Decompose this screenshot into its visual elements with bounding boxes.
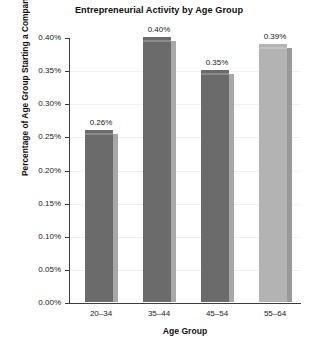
- y-tick: 0.15%: [65, 204, 69, 205]
- bar-side-face: [229, 74, 234, 302]
- x-tick-label: 35–44: [129, 309, 189, 318]
- y-tick-label: 0.20%: [38, 166, 61, 175]
- chart-title: Entrepreneurial Activity by Age Group: [0, 5, 318, 15]
- y-tick: 0.30%: [65, 104, 69, 105]
- y-tick-label: 0.00%: [38, 298, 61, 307]
- bar-side-face: [171, 41, 176, 302]
- x-tick-label: 55–64: [245, 309, 305, 318]
- bar-group[interactable]: 0.35%: [201, 70, 234, 302]
- bar[interactable]: [201, 70, 229, 302]
- bar-group[interactable]: 0.40%: [143, 37, 176, 302]
- y-tick: 0.35%: [65, 71, 69, 72]
- bar-highlight: [85, 133, 113, 135]
- y-tick-label: 0.15%: [38, 199, 61, 208]
- x-axis-line: [69, 303, 301, 304]
- y-tick: 0.05%: [65, 270, 69, 271]
- bar-highlight: [143, 40, 171, 42]
- bar[interactable]: [85, 130, 113, 302]
- plot-area: 0.00%0.05%0.10%0.15%0.20%0.25%0.30%0.35%…: [69, 38, 301, 303]
- bar-group[interactable]: 0.26%: [85, 130, 118, 302]
- bar-value-label: 0.39%: [249, 32, 302, 41]
- y-tick-label: 0.40%: [38, 33, 61, 42]
- y-tick: 0.10%: [65, 237, 69, 238]
- x-tick-label: 20–34: [71, 309, 131, 318]
- bar-side-face: [113, 134, 118, 302]
- y-tick-label: 0.05%: [38, 265, 61, 274]
- y-tick: 0.40%: [65, 38, 69, 39]
- y-tick-label: 0.10%: [38, 232, 61, 241]
- y-tick-label: 0.30%: [38, 99, 61, 108]
- bar-highlight: [259, 47, 287, 49]
- bar-group[interactable]: 0.39%: [259, 44, 292, 302]
- y-axis-title: Percentage of Age Group Starting a Compa…: [20, 0, 30, 185]
- y-tick: 0.00%: [65, 303, 69, 304]
- bar[interactable]: [259, 44, 287, 302]
- y-tick-label: 0.35%: [38, 66, 61, 75]
- bar[interactable]: [143, 37, 171, 302]
- x-tick-label: 45–54: [187, 309, 247, 318]
- bar-value-label: 0.26%: [75, 118, 128, 127]
- bar-value-label: 0.40%: [133, 25, 186, 34]
- bar-chart: Entrepreneurial Activity by Age Group Pe…: [0, 0, 318, 351]
- y-tick: 0.20%: [65, 171, 69, 172]
- y-tick-label: 0.25%: [38, 132, 61, 141]
- bar-value-label: 0.35%: [191, 58, 244, 67]
- bar-side-face: [287, 48, 292, 302]
- y-tick: 0.25%: [65, 137, 69, 138]
- bar-highlight: [201, 73, 229, 75]
- x-axis-title: Age Group: [69, 326, 301, 336]
